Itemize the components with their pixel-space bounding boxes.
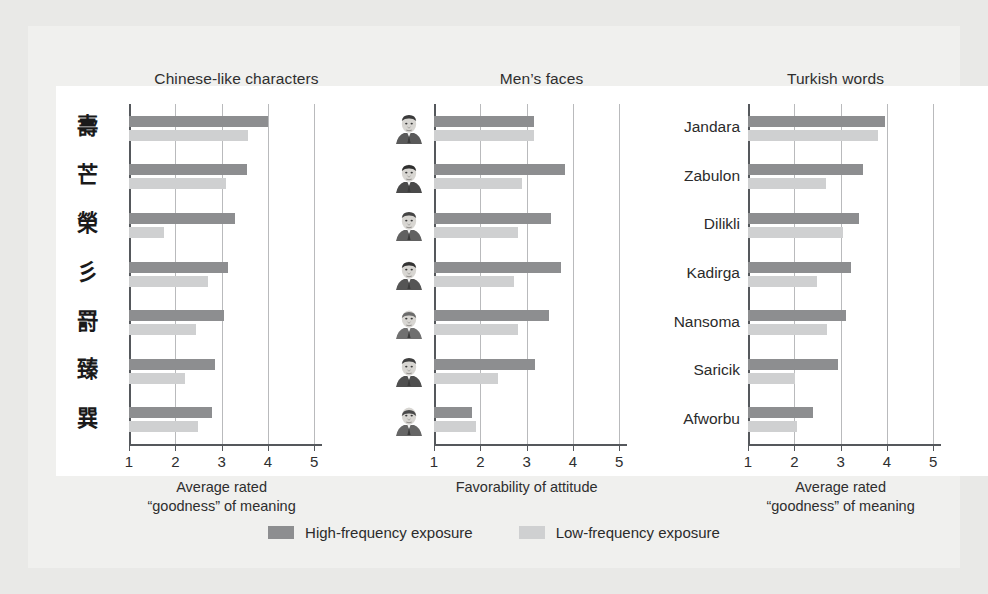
x-tick xyxy=(480,445,481,451)
gridline xyxy=(268,104,269,444)
row-face-thumbnail xyxy=(394,110,424,144)
legend-item-low: Low-frequency exposure xyxy=(519,524,720,541)
bar-high-frequency xyxy=(748,116,885,127)
x-tick xyxy=(129,445,130,451)
panel-title-1: Chinese-like characters xyxy=(129,70,344,88)
bar-low-frequency xyxy=(748,178,826,189)
panel-1: 壽芒榮彡罸臻巽12345Average rated “goodness” of … xyxy=(129,104,324,476)
row-glyph: 彡 xyxy=(67,259,109,285)
y-axis-1 xyxy=(129,104,131,444)
x-tick-label: 4 xyxy=(258,453,278,470)
bar-low-frequency xyxy=(748,421,797,432)
bar-low-frequency xyxy=(748,373,795,384)
x-axis-caption-3: Average rated “goodness” of meaning xyxy=(708,478,973,516)
bar-high-frequency xyxy=(129,407,212,418)
bar-low-frequency xyxy=(748,130,878,141)
bar-low-frequency xyxy=(129,227,164,238)
gridline xyxy=(887,104,888,444)
bar-low-frequency xyxy=(129,324,196,335)
bar-high-frequency xyxy=(748,262,851,273)
bar-high-frequency xyxy=(748,407,813,418)
row-glyph: 芒 xyxy=(67,162,109,188)
bar-low-frequency xyxy=(129,130,248,141)
x-tick-label: 4 xyxy=(563,453,583,470)
x-tick-label: 5 xyxy=(923,453,943,470)
row-glyph: 罸 xyxy=(67,308,109,334)
row-face-thumbnail xyxy=(394,305,424,339)
gridline xyxy=(619,104,620,444)
x-axis-3 xyxy=(748,444,941,446)
y-axis-3 xyxy=(748,104,750,444)
legend-swatch-high xyxy=(268,526,294,539)
bar-low-frequency xyxy=(129,178,226,189)
gridline xyxy=(175,104,176,444)
bar-high-frequency xyxy=(748,310,846,321)
x-tick xyxy=(434,445,435,451)
bar-low-frequency xyxy=(129,373,185,384)
row-face-thumbnail xyxy=(394,402,424,436)
row-face-thumbnail xyxy=(394,256,424,290)
bar-high-frequency xyxy=(129,359,215,370)
x-tick-label: 2 xyxy=(470,453,490,470)
bar-low-frequency xyxy=(748,276,817,287)
bar-high-frequency xyxy=(434,262,561,273)
bar-high-frequency xyxy=(129,116,268,127)
bar-low-frequency xyxy=(434,130,534,141)
x-tick xyxy=(933,445,934,451)
x-tick xyxy=(573,445,574,451)
x-tick-label: 1 xyxy=(424,453,444,470)
bar-high-frequency xyxy=(748,164,863,175)
x-tick xyxy=(268,445,269,451)
x-axis-caption-1: Average rated “goodness” of meaning xyxy=(89,478,354,516)
chart-legend: High-frequency exposureLow-frequency exp… xyxy=(28,524,960,541)
x-tick xyxy=(841,445,842,451)
gridline xyxy=(933,104,934,444)
bar-low-frequency xyxy=(434,324,518,335)
legend-label-high: High-frequency exposure xyxy=(305,524,473,541)
bar-high-frequency xyxy=(748,213,859,224)
x-axis-caption-2: Favorability of attitude xyxy=(394,478,659,497)
bar-high-frequency xyxy=(434,164,565,175)
x-tick xyxy=(314,445,315,451)
panel-title-3: Turkish words xyxy=(728,70,943,88)
panel-3: JandaraZabulonDilikliKadirgaNansomaSaric… xyxy=(748,104,943,476)
panel-2: 12345Favorability of attitude xyxy=(434,104,629,476)
x-axis-2 xyxy=(434,444,627,446)
legend-swatch-low xyxy=(519,526,545,539)
gridline xyxy=(222,104,223,444)
bar-high-frequency xyxy=(434,116,534,127)
bar-high-frequency xyxy=(434,359,535,370)
bar-high-frequency xyxy=(434,310,549,321)
bar-high-frequency xyxy=(129,213,235,224)
x-axis-1 xyxy=(129,444,322,446)
bar-low-frequency xyxy=(129,421,198,432)
x-tick-label: 3 xyxy=(517,453,537,470)
plot-area-3: JandaraZabulonDilikliKadirgaNansomaSaric… xyxy=(748,104,933,444)
row-face-thumbnail xyxy=(394,353,424,387)
bar-low-frequency xyxy=(434,227,518,238)
bar-high-frequency xyxy=(129,310,224,321)
row-label: Zabulon xyxy=(630,167,740,185)
bar-low-frequency xyxy=(748,324,827,335)
x-tick-label: 1 xyxy=(738,453,758,470)
row-label: Nansoma xyxy=(630,313,740,331)
row-glyph: 巽 xyxy=(67,405,109,431)
plot-area-1: 壽芒榮彡罸臻巽 xyxy=(129,104,314,444)
row-glyph: 壽 xyxy=(67,113,109,139)
bar-low-frequency xyxy=(129,276,208,287)
x-tick xyxy=(887,445,888,451)
plot-area-2 xyxy=(434,104,619,444)
x-tick-label: 5 xyxy=(304,453,324,470)
row-label: Saricik xyxy=(630,361,740,379)
gridline xyxy=(794,104,795,444)
y-axis-2 xyxy=(434,104,436,444)
x-tick xyxy=(619,445,620,451)
bar-low-frequency xyxy=(748,227,843,238)
x-tick-label: 2 xyxy=(784,453,804,470)
x-tick-label: 3 xyxy=(831,453,851,470)
x-tick xyxy=(175,445,176,451)
gridline xyxy=(841,104,842,444)
row-glyph: 臻 xyxy=(67,356,109,382)
gridline xyxy=(480,104,481,444)
x-tick-label: 4 xyxy=(877,453,897,470)
